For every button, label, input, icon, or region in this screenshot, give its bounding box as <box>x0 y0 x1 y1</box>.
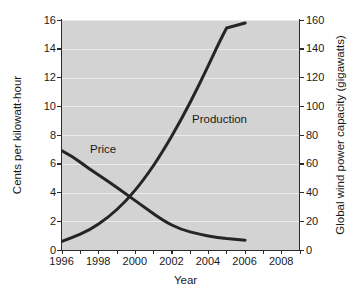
y-tick-label-right: 80 <box>306 130 318 141</box>
x-tick-label: 2002 <box>151 256 191 267</box>
y-tick-label-left: 6 <box>50 158 56 169</box>
x-tick <box>190 250 191 254</box>
y-tick-label-left: 2 <box>50 216 56 227</box>
y-axis-left-title: Cents per kilowatt-hour <box>12 76 24 194</box>
y-tick-right <box>300 135 304 136</box>
y-tick-label-right: 100 <box>306 101 324 112</box>
y-tick-label-right: 20 <box>306 216 318 227</box>
y-tick-right <box>300 48 304 49</box>
y-tick-right <box>300 106 304 107</box>
y-tick-label-left: 10 <box>44 101 56 112</box>
y-tick-left <box>57 192 61 193</box>
x-tick <box>208 250 209 254</box>
y-tick-label-left: 14 <box>44 43 56 54</box>
y-tick-left <box>57 135 61 136</box>
y-tick-left <box>57 77 61 78</box>
x-tick-label: 2000 <box>115 256 155 267</box>
x-tick <box>300 250 301 254</box>
y-tick-label-right: 140 <box>306 43 324 54</box>
y-tick-right <box>300 163 304 164</box>
y-tick-label-right: 40 <box>306 187 318 198</box>
y-tick-label-left: 16 <box>44 15 56 26</box>
y-tick-label-left: 12 <box>44 72 56 83</box>
x-tick <box>80 250 81 254</box>
x-tick-label: 1998 <box>78 256 118 267</box>
x-tick <box>226 250 227 254</box>
production-curve <box>62 23 245 241</box>
y-tick-right <box>300 192 304 193</box>
x-tick-label: 2006 <box>225 256 265 267</box>
series-curves <box>62 20 300 250</box>
production-series-label: Production <box>192 114 247 126</box>
x-tick-label: 2008 <box>261 256 301 267</box>
x-axis-title: Year <box>8 275 355 287</box>
price-series-label: Price <box>90 144 116 156</box>
y-tick-label-right: 160 <box>306 15 324 26</box>
y-axis-right-title: Global wind power capacity (gigawatts) <box>335 35 347 234</box>
x-tick <box>281 250 282 254</box>
x-tick <box>62 250 63 254</box>
y-tick-right <box>300 20 304 21</box>
y-tick-left <box>57 221 61 222</box>
x-tick-label: 1996 <box>42 256 82 267</box>
y-tick-right <box>300 221 304 222</box>
x-tick <box>135 250 136 254</box>
chart-figure: 16 14 12 10 8 6 4 2 0 160 140 120 100 80… <box>0 0 355 298</box>
y-tick-right <box>300 77 304 78</box>
x-tick <box>245 250 246 254</box>
y-tick-left <box>57 250 61 251</box>
y-tick-label-right: 120 <box>306 72 324 83</box>
y-axis-left-spine <box>61 19 62 251</box>
y-tick-left <box>57 20 61 21</box>
x-axis-spine <box>61 250 301 251</box>
y-tick-label-right: 60 <box>306 158 318 169</box>
y-tick-label-right: 0 <box>306 245 312 256</box>
y-tick-left <box>57 106 61 107</box>
y-tick-label-left: 0 <box>50 245 56 256</box>
x-tick-label: 2004 <box>188 256 228 267</box>
y-tick-left <box>57 163 61 164</box>
x-tick <box>263 250 264 254</box>
y-tick-label-left: 4 <box>50 187 56 198</box>
y-tick-label-left: 8 <box>50 130 56 141</box>
x-tick <box>171 250 172 254</box>
y-tick-left <box>57 48 61 49</box>
x-tick <box>117 250 118 254</box>
x-tick <box>98 250 99 254</box>
x-tick <box>153 250 154 254</box>
